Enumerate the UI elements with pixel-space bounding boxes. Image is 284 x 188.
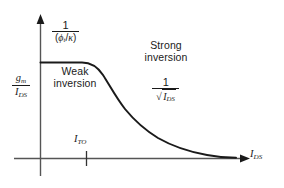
strong-inversion-line1: Strong: [132, 40, 200, 52]
fraction-numerator: 1: [52, 19, 79, 32]
fraction-y-axis: gm IDS: [12, 72, 30, 98]
strong-inversion-region-label: Strong inversion: [132, 40, 200, 64]
figure-canvas: 1 (ϕt/κ) Weak inversion Strong inversion…: [0, 0, 284, 188]
sqrt-group: √IDS: [155, 89, 176, 103]
fraction-numerator: 1: [152, 76, 179, 89]
current-subscript: DS: [167, 95, 175, 102]
y-axis-arrowhead: [37, 14, 45, 24]
ids-subscript: DS: [254, 153, 263, 161]
weak-inversion-line1: Weak: [44, 66, 106, 78]
plot-svg: [0, 0, 284, 188]
fraction-denominator: (ϕt/κ): [52, 32, 79, 44]
fraction-denominator: IDS: [12, 86, 30, 99]
fraction-weak-asymptote: 1 (ϕt/κ): [52, 19, 79, 44]
weak-inversion-region-label: Weak inversion: [44, 66, 106, 90]
x-axis-arrowhead: [240, 155, 250, 163]
y-axis-label: gm IDS: [6, 72, 36, 98]
weak-inversion-line2: inversion: [44, 78, 106, 90]
fraction-strong-asymptote: 1 √IDS: [152, 76, 179, 103]
x-tick-label-ito: ITO: [74, 133, 86, 146]
radicand: IDS: [162, 89, 177, 103]
paren-close: ): [73, 32, 76, 43]
strong-inversion-asymptote-label: 1 √IDS: [152, 76, 179, 103]
fraction-denominator: √IDS: [152, 89, 179, 103]
weak-inversion-asymptote-label: 1 (ϕt/κ): [52, 19, 79, 44]
gm-subscript: m: [21, 77, 26, 85]
strong-inversion-line2: inversion: [132, 52, 200, 64]
x-axis-label: IDS: [250, 148, 262, 161]
fraction-numerator: gm: [12, 72, 30, 86]
ids-subscript: DS: [18, 90, 27, 98]
ito-subscript: TO: [78, 138, 87, 146]
